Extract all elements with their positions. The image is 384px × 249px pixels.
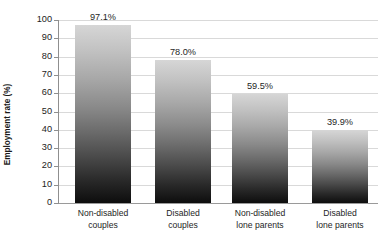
x-axis-category-label: Non-disabledcouples (65, 208, 141, 231)
bar-value-label: 97.1% (75, 13, 131, 22)
y-axis-tick-label: 40 (14, 125, 52, 134)
y-axis-tick-label: 70 (14, 70, 52, 79)
x-axis-category-label: Non-disabledlone parents (222, 208, 298, 231)
x-axis-category-line: lone parents (222, 220, 298, 232)
plot-area (59, 20, 378, 203)
bar (232, 94, 288, 203)
x-axis-category-line: Non-disabled (222, 208, 298, 220)
bar-value-label: 59.5% (232, 82, 288, 91)
x-axis-category-line: Disabled (302, 208, 378, 220)
x-axis-category-line: Non-disabled (65, 208, 141, 220)
y-axis-tick-label: 50 (14, 107, 52, 116)
x-axis-category-line: couples (145, 220, 221, 232)
bar-chart: Employment rate (%) 01020304050607080901… (0, 0, 384, 249)
x-axis-category-line: couples (65, 220, 141, 232)
y-axis-tick-label: 90 (14, 33, 52, 42)
y-axis-tick-label: 20 (14, 161, 52, 170)
gridline (59, 203, 378, 204)
y-axis-tick-label: 0 (14, 198, 52, 207)
y-axis-tick-label: 80 (14, 52, 52, 61)
y-axis-tick-label: 30 (14, 143, 52, 152)
x-axis-category-line: Disabled (145, 208, 221, 220)
y-axis-tick-label: 60 (14, 88, 52, 97)
bar-value-label: 78.0% (155, 48, 211, 57)
y-axis-tick-label: 100 (14, 15, 52, 24)
y-axis-title: Employment rate (%) (0, 0, 14, 249)
bar (155, 60, 211, 203)
x-axis-category-line: lone parents (302, 220, 378, 232)
y-axis-tick-label: 10 (14, 180, 52, 189)
x-axis-category-label: Disabledlone parents (302, 208, 378, 231)
x-axis-category-label: Disabledcouples (145, 208, 221, 231)
bar-value-label: 39.9% (312, 118, 368, 127)
bar (75, 25, 131, 203)
bar (312, 130, 368, 203)
